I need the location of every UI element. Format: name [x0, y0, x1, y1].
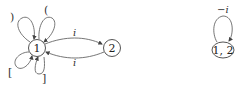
- loop-label-node-12: −i: [217, 4, 229, 15]
- state-node-12: 1, 2: [212, 42, 234, 58]
- state-node-2: 2: [104, 40, 121, 57]
- node-2-label: 2: [109, 42, 116, 55]
- edge-label-2-to-1: i: [73, 57, 76, 68]
- node-1-label: 1: [34, 42, 41, 55]
- self-loop-top-left: [18, 17, 35, 42]
- node-12-label: 1, 2: [213, 44, 234, 57]
- self-loop-node-12: [214, 16, 232, 42]
- loop-label-top-left: ): [10, 11, 14, 24]
- state-node-1: 1: [29, 40, 46, 57]
- edge-label-1-to-2: i: [73, 27, 76, 38]
- loop-label-top-right: (: [44, 4, 48, 17]
- edge-1-to-2: [45, 38, 102, 44]
- automaton-diagram: ) ( [ ] i i 1 2 −i 1, 2: [0, 0, 246, 85]
- self-loop-bottom-left: [15, 52, 32, 68]
- loop-label-bottom-left: [: [8, 66, 12, 79]
- self-loop-top-right: [39, 17, 55, 42]
- loop-label-bottom-right: ]: [42, 72, 46, 85]
